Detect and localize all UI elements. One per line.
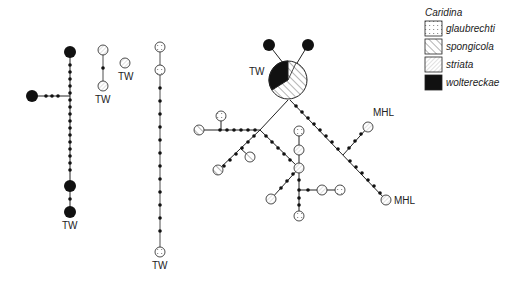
legend-label: striata — [446, 59, 474, 70]
label-tw: TW — [249, 66, 265, 77]
legend-label: glaubrechti — [446, 23, 496, 34]
network-woltereckae — [26, 46, 76, 218]
legend-label: woltereckae — [446, 77, 500, 88]
network-glaubrechti-chain — [155, 42, 165, 257]
legend-swatch-dots — [425, 21, 442, 36]
legend-label: spongicola — [446, 41, 494, 52]
label-tw: TW — [118, 71, 134, 82]
label-tw: TW — [152, 260, 168, 271]
label-mhl: MHL — [373, 107, 395, 118]
legend-swatch-hatch-fine — [425, 57, 442, 72]
pie-node-mixed — [269, 61, 307, 99]
legend-title: Caridina — [425, 7, 463, 18]
haplotype-network: TW TW TW TW — [0, 0, 522, 285]
network-striata-pair — [98, 45, 130, 91]
legend: Caridina glaubrechti spongicola striata … — [425, 7, 500, 90]
label-tw: TW — [62, 220, 78, 231]
legend-swatch-hatch-wide — [425, 39, 442, 54]
legend-swatch-solid — [425, 75, 442, 90]
label-mhl: MHL — [394, 195, 416, 206]
label-tw: TW — [95, 94, 111, 105]
network-main — [194, 39, 391, 221]
